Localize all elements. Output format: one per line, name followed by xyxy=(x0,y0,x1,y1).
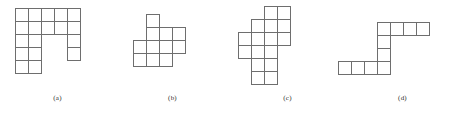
shape-stage-a xyxy=(0,0,115,92)
polyomino-cell xyxy=(252,33,265,46)
panel-caption-d: (d) xyxy=(345,94,460,103)
figure-panel-b: (b) xyxy=(115,0,230,114)
polyomino-cell xyxy=(173,41,186,54)
polyomino-cell xyxy=(160,54,173,67)
polyomino-shape-d xyxy=(325,22,431,76)
panel-caption-b: (b) xyxy=(115,94,230,103)
polyomino-cell xyxy=(265,33,278,46)
polyomino-cell xyxy=(134,54,147,67)
polyomino-cell xyxy=(378,62,391,75)
polyomino-cell xyxy=(265,72,278,85)
polyomino-cell xyxy=(29,35,42,48)
polyomino-cell xyxy=(147,28,160,41)
polyomino-cell xyxy=(68,22,81,35)
panel-caption-a: (a) xyxy=(0,94,115,103)
polyomino-cell xyxy=(147,54,160,67)
polyomino-cell xyxy=(278,20,291,33)
polyomino-shape-a xyxy=(15,8,82,75)
polyomino-cell xyxy=(147,15,160,28)
shape-stage-b xyxy=(115,0,230,92)
polyomino-cell xyxy=(239,33,252,46)
figure-panel-d: (d) xyxy=(345,0,460,114)
polyomino-cell xyxy=(68,48,81,61)
polyomino-cell xyxy=(252,46,265,59)
shape-stage-d xyxy=(345,0,460,92)
polyomino-cell xyxy=(160,28,173,41)
polyomino-shape-b xyxy=(133,14,187,68)
polyomino-cell xyxy=(134,41,147,54)
polyomino-cell xyxy=(265,46,278,59)
polyomino-cell xyxy=(16,61,29,74)
polyomino-cell xyxy=(265,59,278,72)
polyomino-cell xyxy=(252,59,265,72)
polyomino-cell xyxy=(42,22,55,35)
polyomino-cell xyxy=(352,62,365,75)
polyomino-cell xyxy=(278,33,291,46)
polyomino-cell xyxy=(29,61,42,74)
polyomino-cell xyxy=(404,23,417,36)
polyomino-cell xyxy=(173,28,186,41)
polyomino-cell xyxy=(278,7,291,20)
polyomino-cell xyxy=(68,9,81,22)
polyomino-cell xyxy=(417,23,430,36)
polyomino-figure-board: (a)(b)(c)(d) xyxy=(0,0,460,114)
polyomino-cell xyxy=(16,35,29,48)
polyomino-cell xyxy=(252,72,265,85)
polyomino-cell xyxy=(29,48,42,61)
polyomino-cell xyxy=(391,23,404,36)
panel-caption-c: (c) xyxy=(230,94,345,103)
polyomino-cell xyxy=(147,41,160,54)
polyomino-cell xyxy=(68,35,81,48)
polyomino-cell xyxy=(265,20,278,33)
polyomino-cell xyxy=(16,9,29,22)
polyomino-cell xyxy=(339,62,352,75)
polyomino-cell xyxy=(29,9,42,22)
polyomino-cell xyxy=(265,7,278,20)
polyomino-cell xyxy=(378,49,391,62)
polyomino-cell xyxy=(160,41,173,54)
polyomino-cell xyxy=(252,20,265,33)
polyomino-cell xyxy=(16,48,29,61)
polyomino-cell xyxy=(42,9,55,22)
polyomino-cell xyxy=(16,22,29,35)
polyomino-cell xyxy=(239,46,252,59)
polyomino-cell xyxy=(378,36,391,49)
polyomino-shape-c xyxy=(238,6,292,86)
figure-panel-a: (a) xyxy=(0,0,115,114)
polyomino-cell xyxy=(378,23,391,36)
polyomino-cell xyxy=(55,22,68,35)
polyomino-cell xyxy=(55,9,68,22)
polyomino-cell xyxy=(365,62,378,75)
polyomino-cell xyxy=(29,22,42,35)
